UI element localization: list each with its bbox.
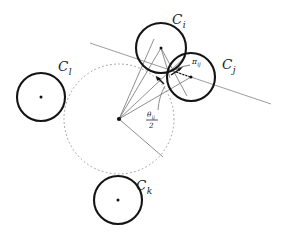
center-dot-ci xyxy=(160,47,163,50)
label-cl-base: C xyxy=(58,58,69,74)
label-ci: Ci xyxy=(172,11,186,30)
ray-lower-extended xyxy=(119,119,163,157)
normal-vector xyxy=(156,76,164,84)
label-ck-base: C xyxy=(136,177,147,193)
label-theta-numerator: θij xyxy=(147,110,155,121)
ray-through-tangency xyxy=(119,56,186,119)
geometry-diagram: Ci Cj Ck Cl πij θij 2 xyxy=(0,0,281,245)
apex-point xyxy=(117,117,121,121)
ray-to-ci-center xyxy=(119,48,161,119)
label-theta-denominator: 2 xyxy=(148,121,154,130)
label-cj-base: C xyxy=(222,56,233,72)
figure-root: Ci Cj Ck Cl πij θij 2 xyxy=(0,0,281,245)
label-theta-fraction: θij 2 xyxy=(146,110,158,130)
label-pi-sub: ij xyxy=(197,61,201,68)
label-ci-sub: i xyxy=(183,20,186,30)
label-ck: Ck xyxy=(136,177,152,196)
theta-arc-leader xyxy=(158,86,165,110)
label-pi-ij: πij xyxy=(191,57,201,68)
center-dot-ck xyxy=(117,199,120,202)
label-cj: Cj xyxy=(222,56,236,75)
center-dot-cl xyxy=(40,96,43,99)
label-cl: Cl xyxy=(58,58,72,77)
label-ci-base: C xyxy=(172,11,183,27)
label-cl-sub: l xyxy=(69,67,72,77)
label-ck-sub: k xyxy=(147,186,152,196)
